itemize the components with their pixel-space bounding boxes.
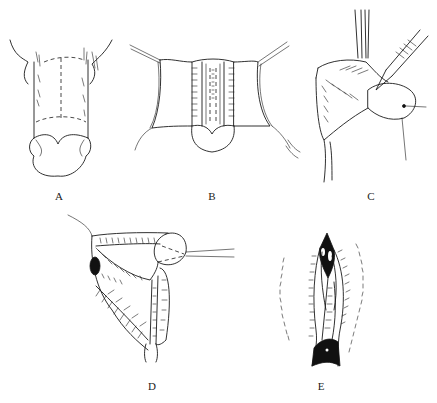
panel-c-drawing — [286, 10, 428, 182]
panel-label-d: D — [148, 380, 156, 392]
panel-b-drawing — [130, 42, 290, 152]
panel-label-a: A — [55, 190, 63, 202]
surgical-illustration-figure: A B C D E — [0, 0, 437, 403]
panel-a-drawing — [10, 40, 112, 176]
panel-label-c: C — [367, 190, 374, 202]
panel-e-drawing — [280, 233, 363, 366]
panel-label-e: E — [318, 380, 325, 392]
panel-label-b: B — [208, 190, 215, 202]
panel-d-drawing — [68, 215, 234, 362]
